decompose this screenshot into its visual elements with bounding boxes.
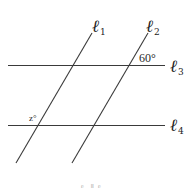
line-l2: [72, 33, 148, 163]
geometry-diagram: ℓ 1 ℓ 2 ℓ 3 ℓ 4 60° z° ℓ₁ ∥ ℓ₂: [0, 0, 194, 188]
caption: ℓ₁ ∥ ℓ₂: [80, 183, 104, 188]
angle-label-z: z°: [29, 113, 37, 123]
svg-text:3: 3: [178, 67, 184, 77]
svg-text:1: 1: [100, 27, 106, 37]
label-l4: ℓ 4: [170, 115, 184, 136]
label-l2: ℓ 2: [146, 16, 160, 37]
line-l1: [16, 33, 92, 163]
svg-text:4: 4: [178, 126, 184, 136]
svg-text:ℓ: ℓ: [170, 56, 177, 76]
label-l1: ℓ 1: [92, 16, 106, 37]
svg-text:ℓ: ℓ: [146, 16, 153, 36]
svg-text:ℓ: ℓ: [170, 115, 177, 135]
angle-label-60: 60°: [139, 51, 156, 65]
svg-text:ℓ: ℓ: [92, 16, 99, 36]
svg-text:2: 2: [154, 27, 160, 37]
label-l3: ℓ 3: [170, 56, 184, 77]
